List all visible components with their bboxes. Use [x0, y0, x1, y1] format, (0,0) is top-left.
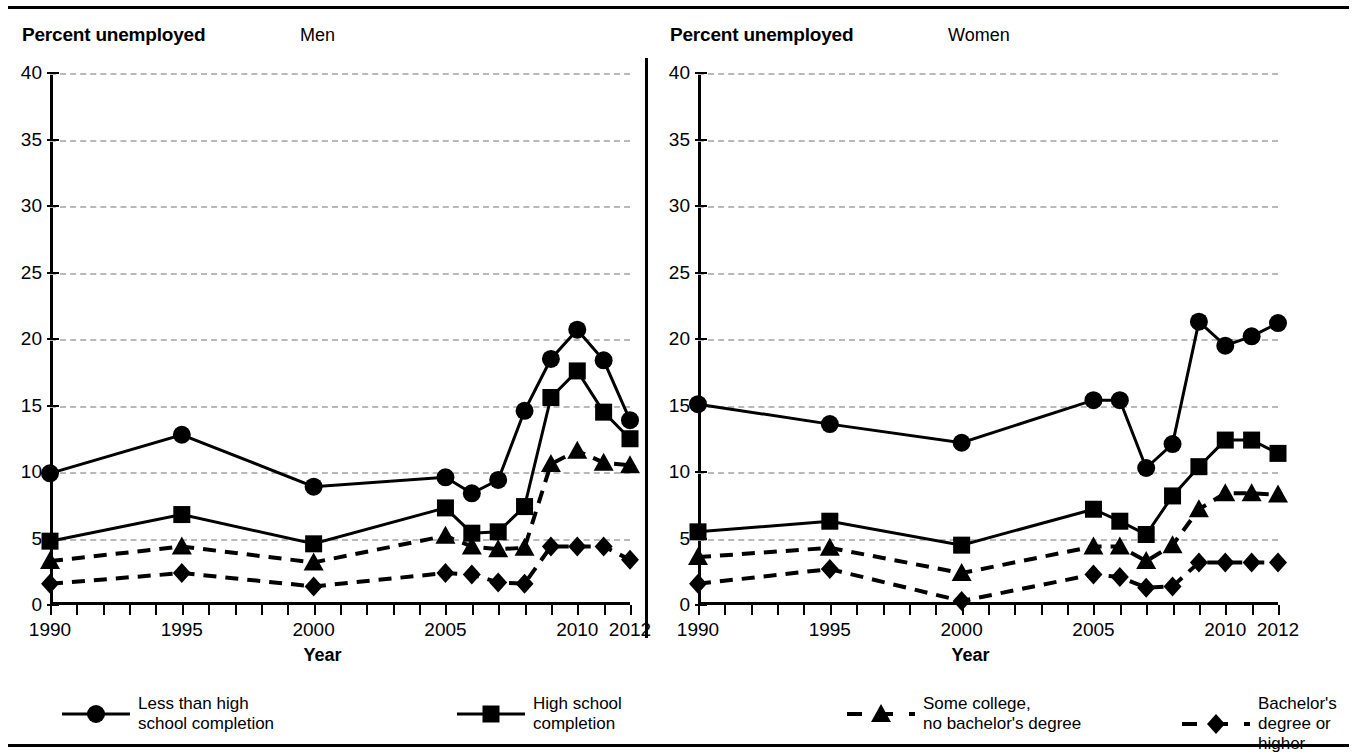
series-layer [698, 73, 1278, 605]
y-axis-tick-label: 0 [650, 594, 690, 616]
data-point-marker [821, 415, 839, 433]
y-axis-tick-label: 15 [2, 395, 42, 417]
data-point-marker [1137, 578, 1155, 598]
data-point-marker [489, 471, 507, 489]
x-axis-tick [1252, 605, 1254, 615]
triangle-icon [845, 701, 923, 727]
data-point-marker [436, 563, 454, 583]
x-axis-tick [525, 605, 527, 615]
circle-icon [60, 701, 138, 727]
x-axis-tick-label: 2000 [292, 619, 334, 641]
x-axis-tick [883, 605, 885, 615]
data-point-marker [305, 576, 323, 596]
y-axis-title-men: Percent unemployed [22, 24, 205, 46]
data-point-marker [1085, 501, 1102, 518]
square-icon [455, 701, 533, 727]
x-axis-tick [1146, 605, 1148, 615]
x-axis-tick-label: 2005 [424, 619, 466, 641]
x-axis-tick [182, 605, 184, 615]
data-point-marker [1215, 483, 1235, 501]
data-point-marker [569, 362, 586, 379]
data-point-marker [595, 536, 613, 556]
x-axis-tick [604, 605, 606, 615]
x-axis-tick [1093, 605, 1095, 615]
x-axis-tick-label: 2005 [1072, 619, 1114, 641]
data-point-marker [820, 538, 840, 556]
panel-label-men: Men [300, 25, 335, 46]
x-axis-tick [935, 605, 937, 615]
data-point-marker [437, 499, 454, 516]
x-axis-tick [803, 605, 805, 615]
legend-item-bachelors[interactable]: Bachelor's degree or higher [1180, 694, 1357, 754]
data-point-marker [1137, 459, 1155, 477]
data-point-marker [516, 498, 533, 515]
x-axis-tick [1041, 605, 1043, 615]
x-axis-tick [988, 605, 990, 615]
x-axis-tick-label: 2000 [940, 619, 982, 641]
x-axis-tick [498, 605, 500, 615]
y-axis-tick-label: 10 [650, 461, 690, 483]
x-axis-tick [129, 605, 131, 615]
data-point-marker [463, 564, 481, 584]
data-point-marker [595, 404, 612, 421]
x-axis-tick-label: 2010 [556, 619, 598, 641]
x-axis-tick [698, 605, 700, 615]
x-axis-tick [1173, 605, 1175, 615]
data-point-marker [305, 478, 323, 496]
panel-women: Percent unemployed Women 051015202530354… [648, 0, 1293, 680]
legend-item-some-college[interactable]: Some college, no bachelor's degree [845, 694, 1081, 734]
y-axis-tick-label: 15 [650, 395, 690, 417]
data-point-marker [1189, 499, 1209, 517]
y-axis-tick-label: 25 [650, 262, 690, 284]
data-point-marker [41, 464, 59, 482]
data-point-marker [542, 389, 559, 406]
data-point-marker [1269, 552, 1287, 572]
data-point-marker [305, 535, 322, 552]
y-axis-tick-label: 20 [650, 328, 690, 350]
legend-item-high-school[interactable]: High school completion [455, 694, 622, 734]
x-axis-tick [630, 605, 632, 615]
y-axis-tick-label: 35 [2, 129, 42, 151]
series-line [698, 440, 1278, 545]
x-axis-tick [777, 605, 779, 615]
y-axis-tick-label: 5 [2, 528, 42, 550]
plot-area-men: 0510152025303540199019952000200520102012 [50, 73, 630, 605]
legend-item-less-than-high-school[interactable]: Less than high school completion [60, 694, 274, 734]
data-point-marker [1243, 432, 1260, 449]
data-point-marker [42, 533, 59, 550]
x-axis-tick [103, 605, 105, 615]
data-point-marker [541, 454, 561, 472]
y-axis-tick-label: 10 [2, 461, 42, 483]
x-axis-tick [445, 605, 447, 615]
data-point-marker [953, 591, 971, 611]
x-axis-tick [1278, 605, 1280, 615]
x-axis-tick [50, 605, 52, 615]
series-line [698, 322, 1278, 468]
data-point-marker [1084, 391, 1102, 409]
legend-label: Some college, no bachelor's degree [923, 694, 1081, 734]
legend-label: Less than high school completion [138, 694, 274, 734]
legend: Less than high school completionHigh sch… [0, 686, 1357, 744]
x-axis-tick-label: 2010 [1204, 619, 1246, 641]
x-axis-tick [76, 605, 78, 615]
x-axis-tick [366, 605, 368, 615]
data-point-marker [173, 563, 191, 583]
x-axis-title-women: Year [648, 645, 1293, 666]
data-point-marker [1243, 552, 1261, 572]
data-point-marker [821, 513, 838, 530]
figure: Percent unemployed Men 05101520253035401… [0, 0, 1357, 756]
legend-label: Bachelor's degree or higher [1258, 694, 1357, 754]
data-point-marker [1138, 526, 1155, 543]
legend-label: High school completion [533, 694, 622, 734]
y-axis-title-women: Percent unemployed [670, 24, 853, 46]
y-axis-tick-label: 0 [2, 594, 42, 616]
data-point-marker [621, 411, 639, 429]
x-axis-tick [830, 605, 832, 615]
data-point-marker [1216, 552, 1234, 572]
data-point-marker [490, 523, 507, 540]
data-point-marker [435, 526, 455, 544]
data-point-marker [516, 402, 534, 420]
series-line [698, 493, 1278, 573]
x-axis-tick-label: 1995 [809, 619, 851, 641]
data-point-marker [953, 434, 971, 452]
